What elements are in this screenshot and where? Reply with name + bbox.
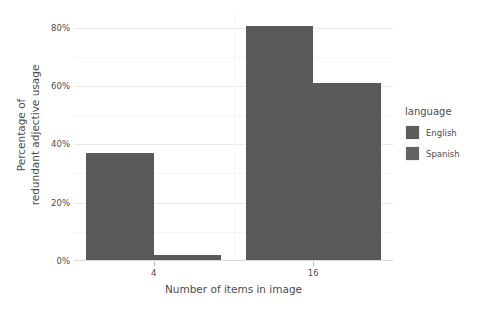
plot-panel — [74, 10, 393, 261]
y-tick-label: 80% — [51, 23, 70, 33]
y-tick-label: 20% — [51, 198, 70, 208]
legend-item-english[interactable]: English — [405, 123, 483, 142]
x-tick-label: 4 — [151, 268, 156, 278]
bar-chart: Percentage of redundant adjective usage … — [0, 0, 485, 311]
y-tick-label: 60% — [51, 81, 70, 91]
bar-spanish-16 — [313, 83, 381, 261]
legend-label: English — [426, 128, 457, 138]
x-tick-mark — [154, 262, 155, 266]
x-tick-mark — [313, 262, 314, 266]
y-tick-label: 0% — [57, 256, 71, 266]
gridline-vertical-minor — [234, 10, 235, 261]
legend-title: language — [405, 106, 483, 117]
legend-swatch-english — [406, 126, 419, 139]
legend-key-box — [405, 146, 420, 161]
x-axis-title: Number of items in image — [74, 283, 393, 295]
y-axis-tick-labels: 0%20%40%60%80% — [40, 0, 70, 311]
y-axis-title-line1: Percentage of — [14, 65, 28, 206]
x-axis-tick-labels: 416 — [74, 262, 393, 280]
x-tick-label: 16 — [308, 268, 319, 278]
legend: language EnglishSpanish — [405, 106, 483, 165]
legend-items: EnglishSpanish — [405, 123, 483, 163]
legend-item-spanish[interactable]: Spanish — [405, 144, 483, 163]
bar-english-16 — [246, 26, 314, 261]
y-tick-label: 40% — [51, 139, 70, 149]
legend-swatch-spanish — [406, 147, 419, 160]
bar-english-4 — [86, 153, 154, 261]
legend-label: Spanish — [426, 149, 460, 159]
x-axis-baseline — [74, 260, 393, 261]
legend-key-box — [405, 125, 420, 140]
